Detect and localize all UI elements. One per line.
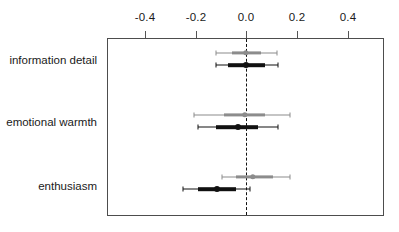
x-tick-label-4: 0.4	[340, 11, 357, 23]
interval-cap-left-r2-black	[183, 187, 184, 192]
interval-cap-left-r2-gray	[222, 175, 223, 180]
x-tick-label-1: -0.2	[186, 11, 207, 23]
estimate-point-r0-black	[243, 62, 249, 68]
interval-cap-left-r1-black	[198, 125, 199, 130]
estimate-point-r2-black	[214, 186, 220, 192]
x-tick-label-2: 0.0	[238, 11, 255, 23]
category-label-information-detail: information detail	[9, 54, 97, 66]
estimate-point-r1-black	[235, 124, 241, 130]
category-label-emotional-warmth: emotional warmth	[6, 116, 97, 128]
interval-cap-right-r1-gray	[290, 113, 291, 118]
interval-cap-left-r1-gray	[194, 113, 195, 118]
forest-plot: -0.4 -0.2 0.0 0.2 0.4 information detail…	[0, 0, 399, 232]
interval-cap-right-r1-black	[278, 125, 279, 130]
interval-cap-right-r2-gray	[290, 175, 291, 180]
interval-cap-right-r0-gray	[277, 51, 278, 56]
interval-cap-left-r0-gray	[216, 51, 217, 56]
x-tick-label-3: 0.2	[289, 11, 306, 23]
interval-cap-right-r0-black	[278, 63, 279, 68]
x-tick-label-0: -0.4	[135, 11, 156, 23]
interval-cap-right-r2-black	[250, 187, 251, 192]
interval-cap-left-r0-black	[216, 63, 217, 68]
category-label-enthusiasm: enthusiasm	[38, 180, 97, 192]
